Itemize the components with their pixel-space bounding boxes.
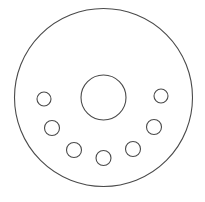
small-hole-circle — [126, 142, 141, 157]
small-holes-group — [37, 89, 168, 166]
disc-diagram — [0, 0, 205, 202]
small-hole-circle — [154, 89, 168, 103]
center-hole-circle — [81, 75, 126, 120]
small-hole-circle — [37, 92, 51, 106]
small-hole-circle — [45, 121, 60, 136]
outer-circle — [15, 9, 193, 187]
diagram-svg — [0, 0, 205, 202]
small-hole-circle — [96, 151, 111, 166]
small-hole-circle — [67, 143, 82, 158]
small-hole-circle — [147, 120, 162, 135]
